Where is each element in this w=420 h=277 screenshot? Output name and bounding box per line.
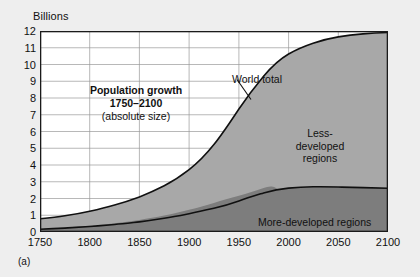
y-axis-tick: 10	[10, 59, 36, 71]
less-developed-regions-label: Less- developed regions	[283, 127, 357, 165]
y-axis-tick: 1	[10, 209, 36, 221]
less-developed-line3: regions	[283, 152, 357, 165]
callout-title-line2: 1750–2100	[70, 97, 202, 110]
less-developed-line1: Less-	[283, 127, 357, 140]
y-axis-tick: 5	[10, 142, 36, 154]
y-axis-tick: 9	[10, 75, 36, 87]
chart-callout-subtitle: (absolute size)	[70, 110, 202, 123]
y-axis-tick: 7	[10, 109, 36, 121]
world-total-label: World total	[232, 73, 282, 85]
y-axis-tick: 4	[10, 159, 36, 171]
less-developed-line2: developed	[283, 140, 357, 153]
x-axis-tick: 1750	[28, 236, 52, 248]
chart-callout-title: Population growth 1750–2100	[70, 84, 202, 109]
y-axis-tick-labels: 0123456789101112	[8, 31, 36, 232]
x-axis-tick: 1900	[177, 236, 201, 248]
x-axis-tick: 1850	[127, 236, 151, 248]
figure-panel-a: Billions 0123456789101112	[0, 0, 420, 277]
x-axis-tick: 2050	[326, 236, 350, 248]
y-axis-unit-label: Billions	[33, 10, 69, 22]
callout-title-line1: Population growth	[70, 84, 202, 97]
y-axis-tick: 12	[10, 25, 36, 37]
y-axis-tick: 11	[10, 42, 36, 54]
y-axis-tick: 6	[10, 126, 36, 138]
x-axis-tick: 1950	[227, 236, 251, 248]
x-axis-tick: 2100	[376, 236, 400, 248]
panel-letter-label: (a)	[18, 256, 30, 267]
x-axis-tick: 2000	[276, 236, 300, 248]
y-axis-tick: 3	[10, 176, 36, 188]
y-axis-tick: 8	[10, 92, 36, 104]
y-axis-tick: 2	[10, 193, 36, 205]
x-axis-tick: 1800	[77, 236, 101, 248]
more-developed-regions-label: More-developed regions	[258, 216, 371, 228]
